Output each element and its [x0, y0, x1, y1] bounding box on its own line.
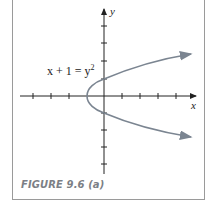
parabola-plot: x y x + 1 = y2	[0, 0, 212, 208]
equation-label: x + 1 = y2	[47, 63, 95, 78]
figure-caption: FIGURE 9.6 (a)	[21, 179, 104, 190]
x-axis-label: x	[190, 99, 196, 111]
y-axis-label: y	[109, 5, 115, 17]
y-axis: y	[101, 5, 115, 174]
x-axis: x	[20, 93, 196, 111]
